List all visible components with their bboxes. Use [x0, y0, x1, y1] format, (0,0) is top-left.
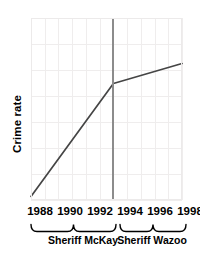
group-labels: Sheriff McKaySheriff Wazoo — [0, 234, 200, 250]
group-label: Sheriff Wazoo — [107, 234, 197, 246]
crime-rate-line-chart: Crime rate 198819901992199419961998 Sher… — [0, 0, 200, 266]
series-layer — [31, 18, 182, 200]
group-brace — [120, 225, 186, 232]
x-tick-label: 1998 — [170, 205, 200, 217]
gridline-horizontal — [31, 200, 182, 201]
gridline-vertical — [182, 18, 183, 200]
group-brace — [31, 225, 116, 232]
crime-rate-line — [31, 64, 182, 197]
y-axis-title: Crime rate — [11, 78, 23, 170]
plot-area — [31, 18, 182, 200]
sheriff-transition-line — [112, 18, 114, 200]
x-axis-tick-labels: 198819901992199419961998 — [0, 205, 200, 221]
